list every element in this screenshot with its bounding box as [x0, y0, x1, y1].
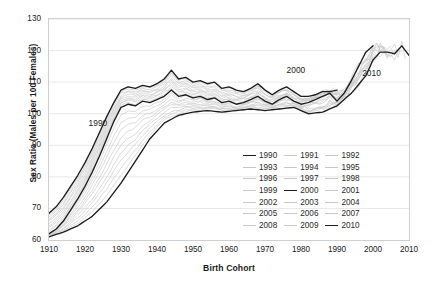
legend-label-1993: 1993 [259, 163, 277, 172]
legend-label-1999: 1999 [259, 186, 277, 195]
legend-item-2007[interactable]: 2007 [325, 208, 359, 220]
legend-item-2000[interactable]: 2000 [284, 185, 318, 197]
legend-swatch-1991 [284, 155, 297, 156]
legend-item-2009[interactable]: 2009 [284, 220, 318, 232]
annotation-2010: 2010 [362, 68, 381, 78]
legend-label-2006: 2006 [300, 209, 318, 218]
legend-swatch-2008 [243, 225, 256, 226]
legend-label-2010: 2010 [341, 221, 359, 230]
legend-label-1991: 1991 [300, 151, 318, 160]
legend-label-1995: 1995 [341, 163, 359, 172]
legend-item-1991[interactable]: 1991 [284, 150, 318, 162]
legend-swatch-2003 [284, 202, 297, 203]
legend-label-1997: 1997 [300, 174, 318, 183]
legend-item-1998[interactable]: 1998 [325, 173, 359, 185]
legend-item-1992[interactable]: 1992 [325, 150, 359, 162]
legend-swatch-2009 [284, 225, 297, 226]
legend-swatch-1993 [243, 167, 256, 168]
legend-swatch-1997 [284, 178, 297, 179]
x-tick-1990: 1990 [328, 245, 346, 254]
legend-item-1993[interactable]: 1993 [243, 162, 277, 174]
legend-swatch-2010 [325, 225, 338, 226]
legend-item-2001[interactable]: 2001 [325, 185, 359, 197]
x-tick-1980: 1980 [292, 245, 310, 254]
legend-label-2004: 2004 [341, 198, 359, 207]
legend-swatch-2007 [325, 213, 338, 214]
legend-item-2010[interactable]: 2010 [325, 220, 359, 232]
x-axis-title: Birth Cohort [48, 263, 410, 273]
legend-item-1994[interactable]: 1994 [284, 162, 318, 174]
x-tick-1910: 1910 [40, 245, 58, 254]
legend-item-1996[interactable]: 1996 [243, 173, 277, 185]
y-tick-80: 80 [7, 173, 41, 181]
y-tick-60: 60 [7, 236, 41, 244]
legend-item-2003[interactable]: 2003 [284, 196, 318, 208]
legend-label-1996: 1996 [259, 174, 277, 183]
x-tick-2010: 2010 [400, 245, 418, 254]
legend-label-2007: 2007 [341, 209, 359, 218]
legend-label-1992: 1992 [341, 151, 359, 160]
legend-label-2005: 2005 [259, 209, 277, 218]
legend-swatch-1990 [243, 155, 256, 156]
legend-item-1999[interactable]: 1999 [243, 185, 277, 197]
y-axis-tick-labels: 60708090100110120130 [0, 0, 44, 282]
chart-figure: Sex Ratio (Males per 100 Females) Birth … [0, 0, 432, 282]
legend-label-2000: 2000 [300, 186, 318, 195]
legend-item-1995[interactable]: 1995 [325, 162, 359, 174]
legend-swatch-1992 [325, 155, 338, 156]
y-tick-100: 100 [7, 110, 41, 118]
x-tick-1940: 1940 [148, 245, 166, 254]
legend-item-2005[interactable]: 2005 [243, 208, 277, 220]
y-tick-130: 130 [7, 15, 41, 23]
x-tick-2000: 2000 [364, 245, 382, 254]
x-tick-1960: 1960 [220, 245, 238, 254]
x-tick-1930: 1930 [112, 245, 130, 254]
legend-item-2002[interactable]: 2002 [243, 196, 277, 208]
legend-label-2008: 2008 [259, 221, 277, 230]
legend-label-1990: 1990 [259, 151, 277, 160]
legend-label-2003: 2003 [300, 198, 318, 207]
legend-label-2009: 2009 [300, 221, 318, 230]
x-tick-1920: 1920 [76, 245, 94, 254]
legend-item-2006[interactable]: 2006 [284, 208, 318, 220]
legend-swatch-2002 [243, 202, 256, 203]
annotation-1990: 1990 [89, 118, 108, 128]
legend-item-1990[interactable]: 1990 [243, 150, 277, 162]
legend-swatch-2004 [325, 202, 338, 203]
y-tick-110: 110 [7, 78, 41, 86]
legend-label-1998: 1998 [341, 174, 359, 183]
legend-swatch-1999 [243, 190, 256, 191]
chart-legend: 1990199119921993199419951996199719981999… [243, 150, 360, 231]
legend-swatch-1996 [243, 178, 256, 179]
x-tick-1950: 1950 [184, 245, 202, 254]
annotation-2000: 2000 [287, 65, 306, 75]
legend-swatch-2000 [284, 190, 297, 191]
legend-swatch-2006 [284, 213, 297, 214]
x-tick-1970: 1970 [256, 245, 274, 254]
y-tick-120: 120 [7, 47, 41, 55]
y-tick-90: 90 [7, 141, 41, 149]
legend-swatch-1995 [325, 167, 338, 168]
y-tick-70: 70 [7, 204, 41, 212]
legend-item-1997[interactable]: 1997 [284, 173, 318, 185]
legend-swatch-2005 [243, 213, 256, 214]
legend-label-1994: 1994 [300, 163, 318, 172]
legend-swatch-2001 [325, 190, 338, 191]
legend-swatch-1998 [325, 178, 338, 179]
legend-label-2001: 2001 [341, 186, 359, 195]
legend-label-2002: 2002 [259, 198, 277, 207]
legend-swatch-1994 [284, 167, 297, 168]
legend-item-2004[interactable]: 2004 [325, 196, 359, 208]
legend-item-2008[interactable]: 2008 [243, 220, 277, 232]
